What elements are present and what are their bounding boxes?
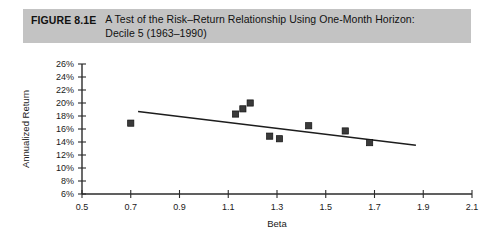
data-point [128,120,134,126]
y-tick-label: 26% [56,59,74,69]
scatter-plot: 6%8%10%12%14%16%18%20%22%24%26% 0.50.70.… [0,46,494,250]
x-tick-label: 0.5 [76,202,89,212]
y-tick-label: 18% [56,111,74,121]
y-tick-label: 6% [61,189,74,199]
y-tick-label: 14% [56,137,74,147]
figure-root: FIGURE 8.1E A Test of the Risk–Return Re… [0,0,494,250]
y-tick-label: 16% [56,124,74,134]
data-point [276,136,282,142]
x-tick-label: 1.5 [319,202,332,212]
x-tick-label: 0.7 [124,202,137,212]
y-tick-label: 22% [56,85,74,95]
y-axis-title: Annualized Return [20,90,31,168]
x-tick-label: 1.1 [222,202,235,212]
figure-title-bar: FIGURE 8.1E A Test of the Risk–Return Re… [23,9,471,43]
data-points [128,100,373,146]
figure-caption: A Test of the Risk–Return Relationship U… [105,13,414,40]
figure-number-label: FIGURE 8.1E [31,13,96,26]
y-tick-label: 24% [56,72,74,82]
data-point [247,100,253,106]
x-tick-label: 1.9 [417,202,430,212]
x-tick-label: 2.1 [466,202,479,212]
y-tick-label: 10% [56,163,74,173]
y-tick-label: 8% [61,176,74,186]
x-tick-label: 0.9 [173,202,186,212]
figure-caption-line-1: A Test of the Risk–Return Relationship U… [105,13,414,27]
y-tick-label: 12% [56,150,74,160]
x-axis-title: Beta [267,218,287,229]
data-point [232,111,238,117]
x-tick-label: 1.3 [271,202,284,212]
data-point [342,128,348,134]
figure-caption-line-2: Decile 5 (1963–1990) [105,27,414,41]
x-tick-label: 1.7 [368,202,381,212]
data-point [267,133,273,139]
y-tick-label: 20% [56,98,74,108]
data-point [306,123,312,129]
data-point [240,106,246,112]
chart-canvas: 6%8%10%12%14%16%18%20%22%24%26% 0.50.70.… [0,46,494,250]
data-point [367,140,373,146]
